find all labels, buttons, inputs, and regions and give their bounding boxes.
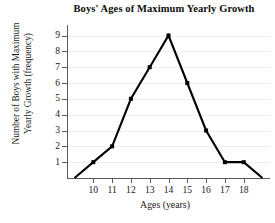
y-axis-tick-label: 2 — [45, 140, 60, 152]
data-point-marker — [185, 81, 189, 85]
x-axis-tick-label-text: 18 — [232, 184, 256, 195]
frequency-polygon-line — [75, 36, 263, 179]
x-axis-tick — [93, 178, 94, 183]
x-axis-tick — [244, 178, 245, 183]
x-axis-tick — [187, 178, 188, 183]
data-point-marker — [110, 144, 114, 148]
data-point-marker — [242, 160, 246, 164]
chart-figure: Boys' Ages of Maximum Yearly Growth Numb… — [0, 0, 275, 223]
data-point-marker — [91, 160, 95, 164]
y-axis-tick — [62, 162, 67, 163]
y-axis-tick-label-text: 6 — [46, 77, 60, 88]
y-axis-tick-label-text: 3 — [46, 124, 60, 135]
y-axis-tick-label: 9 — [45, 29, 60, 41]
y-axis-tick — [62, 36, 67, 37]
y-axis-tick-label-text: 7 — [46, 61, 60, 72]
x-axis-tick-label: 18 — [232, 184, 256, 197]
y-axis-tick — [62, 131, 67, 132]
y-axis-tick — [62, 83, 67, 84]
y-axis-tick-label-text: 2 — [46, 140, 60, 151]
y-axis-tick — [62, 115, 67, 116]
x-axis-tick — [169, 178, 170, 183]
data-point-marker — [204, 129, 208, 133]
y-axis-tick-label: 6 — [45, 77, 60, 89]
y-axis-tick — [62, 99, 67, 100]
y-axis-tick-label: 4 — [45, 108, 60, 120]
x-axis-tick — [150, 178, 151, 183]
data-point-marker — [223, 160, 227, 164]
data-point-markers — [91, 34, 245, 165]
y-axis-tick-label: 8 — [45, 45, 60, 57]
x-axis-tick — [112, 178, 113, 183]
y-axis-tick-label: 1 — [45, 156, 60, 168]
y-axis-tick-label-text: 5 — [46, 92, 60, 103]
y-axis-tick — [62, 51, 67, 52]
data-point-marker — [148, 65, 152, 69]
y-axis-tick-label-text: 1 — [46, 156, 60, 167]
x-axis-tick — [225, 178, 226, 183]
x-axis-tick — [131, 178, 132, 183]
y-axis-tick — [62, 146, 67, 147]
data-point-marker — [129, 97, 133, 101]
y-axis-tick-label-text: 9 — [46, 29, 60, 40]
y-axis-tick-label: 3 — [45, 124, 60, 136]
y-axis-tick-label: 5 — [45, 92, 60, 104]
y-axis-tick-label: 7 — [45, 61, 60, 73]
x-axis-tick — [206, 178, 207, 183]
y-axis-tick — [62, 67, 67, 68]
data-point-marker — [167, 34, 171, 38]
y-axis-tick-label-text: 4 — [46, 108, 60, 119]
x-axis-title: Ages (years) — [60, 199, 270, 210]
y-axis-tick-label-text: 8 — [46, 45, 60, 56]
